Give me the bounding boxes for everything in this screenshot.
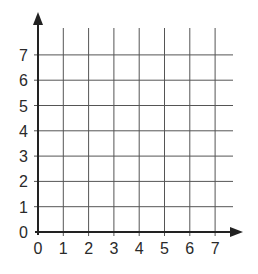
y-tick-label: 3 <box>19 148 28 165</box>
coordinate-grid: 01234567 01234567 <box>0 0 258 274</box>
x-tick-label: 6 <box>185 240 194 257</box>
y-tick-labels: 01234567 <box>19 47 28 241</box>
y-tick-label: 0 <box>19 224 28 241</box>
x-tick-label: 2 <box>84 240 93 257</box>
x-tick-label: 3 <box>109 240 118 257</box>
x-tick-label: 1 <box>59 240 68 257</box>
x-tick-label: 7 <box>211 240 220 257</box>
y-tick-label: 5 <box>19 98 28 115</box>
y-tick-label: 2 <box>19 173 28 190</box>
x-tick-labels: 01234567 <box>34 240 220 257</box>
y-tick-label: 4 <box>19 123 28 140</box>
x-axis-arrow-icon <box>230 227 243 237</box>
x-tick-label: 0 <box>34 240 43 257</box>
axes <box>33 12 243 237</box>
x-tick-label: 5 <box>160 240 169 257</box>
x-tick-label: 4 <box>135 240 144 257</box>
y-tick-label: 1 <box>19 199 28 216</box>
grid-lines <box>34 28 233 236</box>
y-tick-label: 7 <box>19 47 28 64</box>
y-tick-label: 6 <box>19 72 28 89</box>
y-axis-arrow-icon <box>33 12 43 25</box>
